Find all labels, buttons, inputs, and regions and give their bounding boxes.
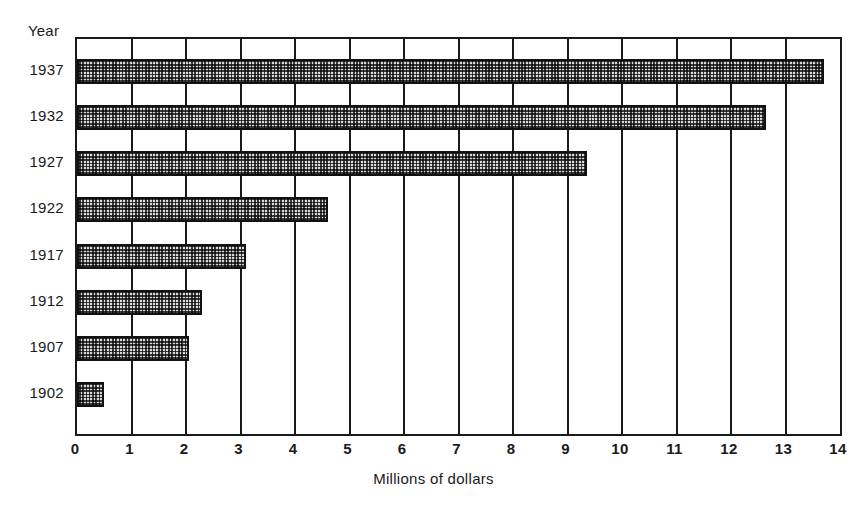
gridline — [785, 39, 787, 434]
y-axis-tick-labels: 19371932192719221917191219071902 — [0, 37, 64, 432]
bar-chart: Year 19371932192719221917191219071902 01… — [0, 0, 867, 506]
y-tick-label-1937: 1937 — [2, 57, 64, 82]
x-tick-label-9: 9 — [561, 440, 570, 457]
y-tick-label-1927: 1927 — [2, 149, 64, 174]
x-tick-label-10: 10 — [611, 440, 628, 457]
bar-1932 — [77, 105, 766, 130]
x-tick-label-11: 11 — [666, 440, 682, 457]
y-tick-label-1912: 1912 — [2, 288, 64, 313]
y-tick-label-1902: 1902 — [2, 380, 64, 405]
bar-1912 — [77, 290, 202, 315]
x-tick-label-4: 4 — [289, 440, 298, 457]
gridline — [403, 39, 405, 434]
gridline — [294, 39, 296, 434]
gridline — [567, 39, 569, 434]
bar-1902 — [77, 382, 104, 407]
x-tick-label-3: 3 — [234, 440, 243, 457]
bar-row — [77, 244, 840, 269]
x-tick-label-6: 6 — [398, 440, 407, 457]
gridline — [131, 39, 133, 434]
x-tick-label-5: 5 — [343, 440, 352, 457]
y-tick-label-1917: 1917 — [2, 242, 64, 267]
bar-row — [77, 336, 840, 361]
x-tick-label-0: 0 — [71, 440, 80, 457]
y-tick-label-1932: 1932 — [2, 103, 64, 128]
gridline — [730, 39, 732, 434]
x-tick-label-13: 13 — [775, 440, 792, 457]
x-tick-label-14: 14 — [829, 440, 846, 457]
bar-row — [77, 197, 840, 222]
gridline — [458, 39, 460, 434]
x-tick-label-2: 2 — [180, 440, 189, 457]
gridline — [185, 39, 187, 434]
gridline — [240, 39, 242, 434]
gridline — [349, 39, 351, 434]
bar-1922 — [77, 197, 328, 222]
gridline — [676, 39, 678, 434]
x-tick-label-1: 1 — [125, 440, 134, 457]
bar-row — [77, 382, 840, 407]
bar-1937 — [77, 59, 824, 84]
bar-row — [77, 151, 840, 176]
bar-row — [77, 105, 840, 130]
gridline — [512, 39, 514, 434]
bar-1907 — [77, 336, 189, 361]
y-tick-label-1922: 1922 — [2, 195, 64, 220]
x-axis-tick-labels: 01234567891011121314 — [0, 440, 867, 464]
plot-area — [75, 37, 842, 436]
bar-1917 — [77, 244, 246, 269]
y-tick-label-1907: 1907 — [2, 334, 64, 359]
bar-row — [77, 290, 840, 315]
plot-inner — [77, 39, 840, 434]
bar-row — [77, 59, 840, 84]
gridline — [621, 39, 623, 434]
bar-1927 — [77, 151, 587, 176]
x-tick-label-8: 8 — [507, 440, 516, 457]
x-tick-label-12: 12 — [720, 440, 737, 457]
x-axis-title: Millions of dollars — [0, 470, 867, 487]
x-tick-label-7: 7 — [452, 440, 461, 457]
